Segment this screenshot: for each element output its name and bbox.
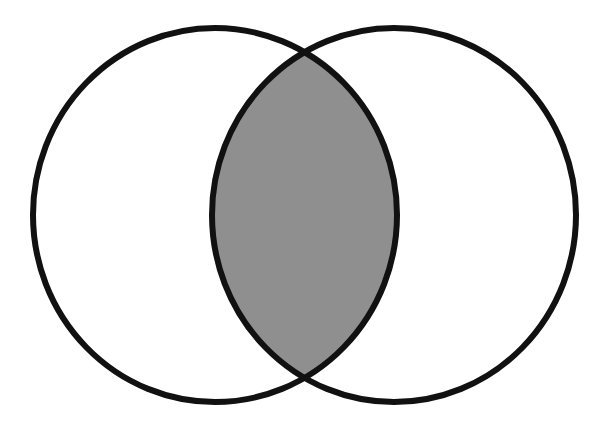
venn-diagram-svg (0, 0, 603, 430)
venn-diagram (0, 0, 603, 430)
